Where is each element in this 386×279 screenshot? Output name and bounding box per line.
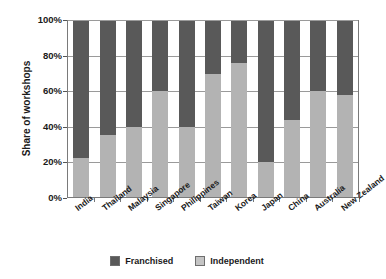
bar-column [179,21,195,197]
bar-segment-independent [337,95,353,197]
y-tick-label-20: 20% [22,156,62,167]
bar-segment-franchised [179,21,195,127]
legend-item-independent: Independent [195,256,264,266]
bar-segment-franchised [337,21,353,95]
bars-layer [68,21,358,197]
bar-column [126,21,142,197]
bar-segment-independent [310,91,326,197]
bar-column [205,21,221,197]
y-tick-label-80: 80% [22,50,62,61]
bar-column [337,21,353,197]
x-tick-mark [173,198,174,202]
bar-segment-independent [100,135,116,197]
bar-column [73,21,89,197]
bar-segment-franchised [258,21,274,162]
bar-segment-independent [126,127,142,197]
x-tick-mark [253,198,254,202]
x-tick-mark [147,198,148,202]
legend-label-franchised: Franchised [125,256,173,266]
bar-column [152,21,168,197]
plot-area [67,20,359,198]
bar-segment-franchised [100,21,116,135]
bar-segment-franchised [284,21,300,120]
x-tick-mark [200,198,201,202]
y-tick-label-100: 100% [22,14,62,25]
legend-label-independent: Independent [210,256,264,266]
x-tick-mark [332,198,333,202]
y-tick-mark-0 [63,198,67,199]
bar-segment-franchised [231,21,247,63]
bar-segment-independent [73,158,89,197]
x-tick-mark [226,198,227,202]
legend-swatch-franchised [110,256,120,266]
y-tick-label-0: 0% [22,192,62,203]
bar-segment-independent [258,162,274,197]
bar-segment-independent [205,74,221,197]
bar-segment-franchised [310,21,326,91]
bar-column [258,21,274,197]
legend-item-franchised: Franchised [110,256,173,266]
y-tick-label-40: 40% [22,121,62,132]
bar-segment-independent [179,127,195,197]
bar-segment-franchised [126,21,142,127]
legend-swatch-independent [195,256,205,266]
bar-segment-independent [152,91,168,197]
bar-segment-independent [231,63,247,197]
bar-segment-franchised [73,21,89,158]
bar-column [100,21,116,197]
bar-column [310,21,326,197]
bar-column [231,21,247,197]
x-tick-mark [306,198,307,202]
bar-segment-independent [284,120,300,197]
chart-legend: FranchisedIndependent [0,256,374,266]
x-tick-mark [120,198,121,202]
bar-segment-franchised [152,21,168,91]
x-tick-mark [359,198,360,202]
bar-column [284,21,300,197]
bar-segment-franchised [205,21,221,74]
y-tick-label-60: 60% [22,85,62,96]
x-tick-mark [279,198,280,202]
x-tick-mark [94,198,95,202]
